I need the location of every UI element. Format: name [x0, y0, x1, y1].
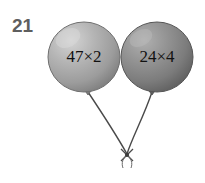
balloon-label-right: 24×4	[121, 47, 193, 67]
question-number: 21	[12, 16, 33, 36]
worksheet-problem-image: 21 47×2 24×4	[0, 0, 205, 183]
balloon-string-icon	[88, 92, 152, 154]
balloon-label-left: 47×2	[48, 47, 120, 67]
